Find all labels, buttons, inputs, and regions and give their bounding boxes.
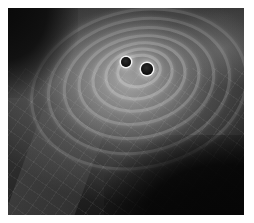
dark-corner-top-left bbox=[8, 8, 78, 98]
black-hole-left bbox=[121, 57, 131, 67]
gravitational-wave-image bbox=[8, 8, 244, 215]
black-hole-right bbox=[141, 63, 153, 75]
dark-corner-bottom-right bbox=[104, 135, 244, 215]
